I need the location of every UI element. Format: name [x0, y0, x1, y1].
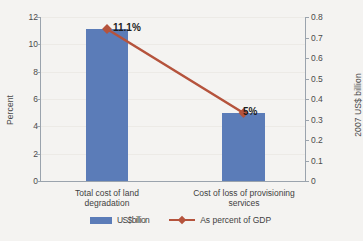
- right-tick-label: 0.8: [311, 12, 337, 22]
- right-tick-label: 0.3: [311, 115, 337, 125]
- left-tick-label: 8: [16, 67, 38, 77]
- right-tick-label: 0.1: [311, 156, 337, 166]
- left-tick-label: 0: [16, 176, 38, 186]
- category-label-first: Total cost of land degradation: [57, 188, 157, 208]
- line-marker-icon: [169, 216, 195, 224]
- right-tickmark: [306, 38, 309, 39]
- left-tick-label: 12: [16, 12, 38, 22]
- gridline: [40, 17, 305, 18]
- left-axis-line: [40, 17, 41, 182]
- legend-label-bar: US$billion: [117, 215, 149, 225]
- right-tickmark: [306, 140, 309, 141]
- right-tick-label: 0.5: [311, 74, 337, 84]
- left-tickmark: [37, 181, 40, 182]
- gridline: [40, 126, 305, 127]
- right-tickmark: [306, 99, 309, 100]
- right-tickmark: [306, 79, 309, 80]
- left-axis-title: Percent: [5, 80, 15, 140]
- right-tickmark: [306, 58, 309, 59]
- bar-swatch-icon: [90, 217, 112, 224]
- right-tickmark: [306, 161, 309, 162]
- category-label-second: Cost of loss of provisioning services: [180, 188, 308, 208]
- x-axis-baseline: [40, 181, 306, 182]
- gridline: [40, 72, 305, 73]
- bar-cost-of-loss-of-provisioning-services[interactable]: [222, 113, 265, 181]
- legend-label-line: As percent of GDP: [200, 215, 271, 225]
- right-tick-label: 0.2: [311, 135, 337, 145]
- right-axis-title: 2007 US$ billion: [353, 55, 363, 155]
- left-tick-label: 4: [16, 121, 38, 131]
- left-tick-label: 10: [16, 39, 38, 49]
- left-tickmark: [37, 99, 40, 100]
- chart-legend: US$billion As percent of GDP: [0, 215, 361, 225]
- right-tick-label: 0.6: [311, 53, 337, 63]
- left-tickmark: [37, 154, 40, 155]
- data-label-first: 11.1%: [113, 22, 141, 33]
- right-tickmark: [306, 17, 309, 18]
- right-tick-label: 0.7: [311, 33, 337, 43]
- left-tickmark: [37, 44, 40, 45]
- right-tickmark: [306, 120, 309, 121]
- right-tickmark: [306, 181, 309, 182]
- gridline: [40, 99, 305, 100]
- legend-item-line[interactable]: As percent of GDP: [169, 215, 271, 225]
- left-tickmark: [37, 17, 40, 18]
- right-tick-label: 0.4: [311, 94, 337, 104]
- left-tick-label: 6: [16, 94, 38, 104]
- bar-total-cost-of-land-degradation[interactable]: [86, 29, 128, 181]
- gridline: [40, 154, 305, 155]
- gridline: [40, 44, 305, 45]
- legend-item-bar[interactable]: US$billion: [90, 215, 149, 225]
- left-tick-label: 2: [16, 149, 38, 159]
- data-label-second: 5%: [243, 106, 257, 117]
- left-tickmark: [37, 72, 40, 73]
- right-tick-label: 0: [311, 176, 337, 186]
- left-tickmark: [37, 126, 40, 127]
